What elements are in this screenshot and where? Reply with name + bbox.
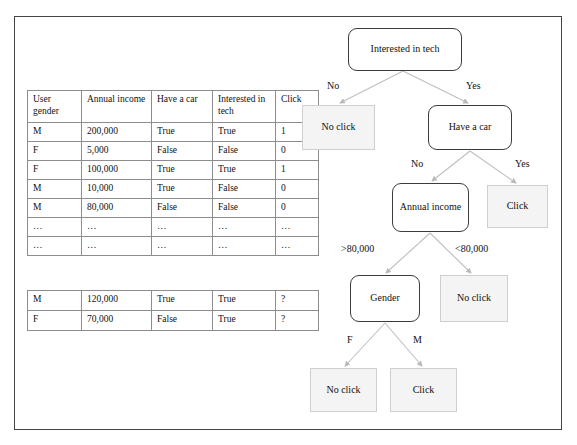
tree-node-label: Gender xyxy=(370,292,399,305)
edge-label-root-yes: Yes xyxy=(466,80,481,91)
cell-have-a-car: True xyxy=(152,180,213,199)
cell-have-a-car: True xyxy=(152,291,213,311)
header-cell-annual-income: Annual income xyxy=(82,91,152,123)
table-header-row: User gender Annual income Have a car Int… xyxy=(28,91,319,123)
edge-label-income-low: <80,000 xyxy=(455,243,488,254)
tree-node-gender[interactable]: Gender xyxy=(350,275,420,322)
tree-leaf-no-click-gender[interactable]: No click xyxy=(310,368,377,412)
header-cell-have-a-car: Have a car xyxy=(152,91,213,123)
cell-interested-in-tech: False xyxy=(213,180,276,199)
tree-node-interested-in-tech[interactable]: Interested in tech xyxy=(348,28,462,71)
cell-click: … xyxy=(276,218,319,237)
cell-click: … xyxy=(276,237,319,256)
cell-user-gender: F xyxy=(28,161,82,180)
tree-leaf-no-click-root[interactable]: No click xyxy=(302,105,375,150)
table-row: F 5,000 False False 0 xyxy=(28,142,319,161)
cell-interested-in-tech: True xyxy=(213,123,276,142)
edge-label-car-yes: Yes xyxy=(515,158,530,169)
edge-label-income-high: >80,000 xyxy=(341,243,374,254)
cell-interested-in-tech: True xyxy=(213,291,276,311)
cell-annual-income: 70,000 xyxy=(82,311,152,331)
edge-label-root-no: No xyxy=(327,80,339,91)
table-row-ellipsis: … … … … … xyxy=(28,237,319,256)
cell-click: 0 xyxy=(276,199,319,218)
cell-interested-in-tech: True xyxy=(213,311,276,331)
tree-leaf-no-click-income[interactable]: No click xyxy=(440,275,508,322)
cell-user-gender: M xyxy=(28,180,82,199)
table-row: M 120,000 True True ? xyxy=(28,291,319,311)
tree-node-label: Annual income xyxy=(400,201,461,214)
cell-annual-income: 100,000 xyxy=(82,161,152,180)
table-row: F 100,000 True True 1 xyxy=(28,161,319,180)
cell-interested-in-tech: True xyxy=(213,161,276,180)
edge-label-car-no: No xyxy=(411,158,423,169)
table-row: F 70,000 False True ? xyxy=(28,311,319,331)
tree-node-annual-income[interactable]: Annual income xyxy=(392,183,469,232)
tree-node-have-a-car[interactable]: Have a car xyxy=(428,105,512,150)
cell-user-gender: M xyxy=(28,291,82,311)
cell-interested-in-tech: False xyxy=(213,199,276,218)
training-data-table: User gender Annual income Have a car Int… xyxy=(27,90,319,256)
cell-click: 0 xyxy=(276,180,319,199)
cell-have-a-car: False xyxy=(152,199,213,218)
header-cell-user-gender: User gender xyxy=(28,91,82,123)
cell-annual-income: 10,000 xyxy=(82,180,152,199)
cell-have-a-car: True xyxy=(152,161,213,180)
cell-annual-income: 120,000 xyxy=(82,291,152,311)
cell-annual-income: … xyxy=(82,218,152,237)
tree-node-label: Click xyxy=(413,384,435,397)
tree-node-label: No click xyxy=(321,121,355,134)
tree-node-label: Interested in tech xyxy=(371,43,440,56)
cell-annual-income: 200,000 xyxy=(82,123,152,142)
tree-leaf-click-gender[interactable]: Click xyxy=(390,368,457,412)
cell-have-a-car: True xyxy=(152,123,213,142)
decision-tree-figure: User gender Annual income Have a car Int… xyxy=(0,0,577,445)
tree-node-label: No click xyxy=(457,292,491,305)
cell-have-a-car: False xyxy=(152,311,213,331)
table-row-ellipsis: … … … … … xyxy=(28,218,319,237)
cell-click-unknown: ? xyxy=(276,291,319,311)
cell-have-a-car: False xyxy=(152,142,213,161)
cell-user-gender: … xyxy=(28,237,82,256)
table-row: M 200,000 True True 1 xyxy=(28,123,319,142)
cell-have-a-car: … xyxy=(152,237,213,256)
cell-interested-in-tech: … xyxy=(213,218,276,237)
query-data-table: M 120,000 True True ? F 70,000 False Tru… xyxy=(27,290,319,331)
cell-click: 1 xyxy=(276,161,319,180)
cell-interested-in-tech: False xyxy=(213,142,276,161)
cell-user-gender: M xyxy=(28,123,82,142)
cell-have-a-car: … xyxy=(152,218,213,237)
tree-leaf-click-car[interactable]: Click xyxy=(487,185,548,228)
tree-node-label: Have a car xyxy=(449,121,492,134)
tree-node-label: No click xyxy=(326,384,360,397)
cell-user-gender: F xyxy=(28,311,82,331)
cell-user-gender: … xyxy=(28,218,82,237)
cell-annual-income: 5,000 xyxy=(82,142,152,161)
table-row: M 80,000 False False 0 xyxy=(28,199,319,218)
cell-annual-income: 80,000 xyxy=(82,199,152,218)
edge-label-gender-f: F xyxy=(347,334,353,345)
tree-node-label: Click xyxy=(507,200,529,213)
edge-label-gender-m: M xyxy=(413,334,422,345)
cell-user-gender: M xyxy=(28,199,82,218)
cell-interested-in-tech: … xyxy=(213,237,276,256)
table-row: M 10,000 True False 0 xyxy=(28,180,319,199)
cell-click-unknown: ? xyxy=(276,311,319,331)
header-cell-interested-in-tech: Interested in tech xyxy=(213,91,276,123)
cell-user-gender: F xyxy=(28,142,82,161)
cell-annual-income: … xyxy=(82,237,152,256)
